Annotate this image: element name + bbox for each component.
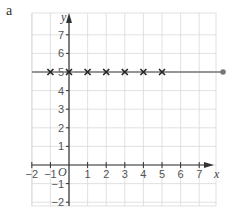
origin-label: O — [58, 165, 67, 179]
y-tick-label: 4 — [58, 85, 64, 97]
y-tick-label: 7 — [58, 29, 64, 41]
y-tick-label: 1 — [58, 140, 64, 152]
x-tick-label: 7 — [196, 168, 202, 180]
y-axis-label: y — [60, 10, 67, 24]
x-tick-label: 3 — [122, 168, 128, 180]
x-tick-label: 5 — [159, 168, 165, 180]
coordinate-grid-chart: −2−11234567−2−11234567xyO — [0, 0, 229, 216]
line-end-dot-icon — [220, 69, 226, 75]
y-tick-label: −1 — [51, 178, 64, 190]
y-tick-label: 2 — [58, 122, 64, 134]
x-axis-arrow-icon — [204, 162, 214, 168]
x-tick-label: −2 — [26, 168, 39, 180]
y-axis-arrow-icon — [66, 13, 72, 23]
y-tick-label: 6 — [58, 47, 64, 59]
x-tick-label: 2 — [103, 168, 109, 180]
y-tick-label: 3 — [58, 103, 64, 115]
y-tick-label: −2 — [51, 196, 64, 208]
x-tick-label: 6 — [178, 168, 184, 180]
x-tick-label: 1 — [85, 168, 91, 180]
x-tick-label: 4 — [140, 168, 146, 180]
x-axis-label: x — [213, 167, 220, 181]
